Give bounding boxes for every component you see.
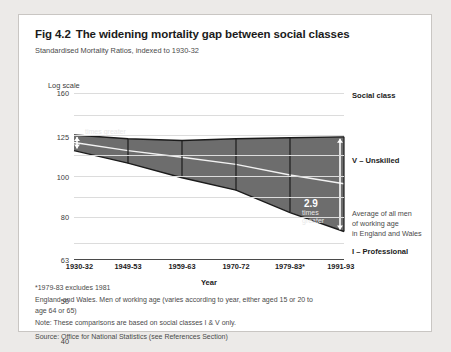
footnote-coverage-line2: age 64 or 65)	[35, 306, 425, 317]
gridline: 80	[74, 155, 344, 156]
annotation-ratio-1930-caption: times greater	[85, 128, 126, 136]
footnotes: *1979-83 excludes 1981 England and Wales…	[35, 283, 425, 344]
y-axis-tick: 160	[43, 89, 69, 98]
x-axis-tick: 1991-93	[327, 262, 354, 271]
page-title: Fig 4.2The widening mortality gap betwee…	[35, 28, 349, 40]
x-axis-tick: 1959-63	[168, 262, 195, 271]
x-axis-tick: 1970-72	[222, 262, 249, 271]
legend-label-professional: I – Professional	[352, 247, 408, 256]
y-axis-tick: 80	[43, 212, 69, 221]
figure-subtitle: Standardised Mortality Ratios, indexed t…	[35, 46, 199, 55]
chart-plot-area: Year 1601251008063504030251930-321949-53…	[74, 93, 344, 259]
annotation-ratio-1991-caption: times greater	[302, 209, 324, 225]
figure-card: Fig 4.2The widening mortality gap betwee…	[18, 14, 432, 332]
legend-average-line2: of working age	[352, 219, 422, 229]
footnote-note: Note: These comparisons are based on soc…	[35, 318, 425, 329]
legend-average-line1: Average of all men	[352, 209, 422, 219]
x-axis-tick: 1979-83*	[275, 262, 305, 271]
gridline: 160	[74, 93, 344, 94]
annotation-ratio-1991: 2.9	[304, 198, 318, 209]
footnote-asterisk: *1979-83 excludes 1981	[35, 283, 425, 294]
gridline: 63	[74, 176, 344, 177]
annotation-ratio-1991-caption-line2: greater	[302, 217, 324, 225]
legend-header: Social class	[352, 91, 395, 100]
y-axis-tick: 125	[43, 133, 69, 142]
figure-title-text: The widening mortality gap between socia…	[76, 28, 350, 40]
gridline: 30	[74, 243, 344, 244]
gridline: 125	[74, 115, 344, 116]
legend-label-average: Average of all men of working age in Eng…	[352, 209, 422, 239]
footnote-coverage-line1: England and Wales. Men of working age (v…	[35, 295, 425, 306]
legend-label-unskilled: V – Unskilled	[352, 156, 399, 165]
annotation-ratio-1991-caption-line1: times	[302, 209, 324, 217]
gridline: 25	[74, 259, 344, 260]
legend-average-line3: in England and Wales	[352, 229, 422, 239]
x-axis-tick: 1930-32	[66, 262, 93, 271]
footnote-source: Source: Office for National Statistics (…	[35, 332, 425, 343]
x-axis-tick: 1949-53	[114, 262, 141, 271]
figure-number: Fig 4.2	[35, 28, 71, 40]
y-axis-tick: 100	[43, 173, 69, 182]
